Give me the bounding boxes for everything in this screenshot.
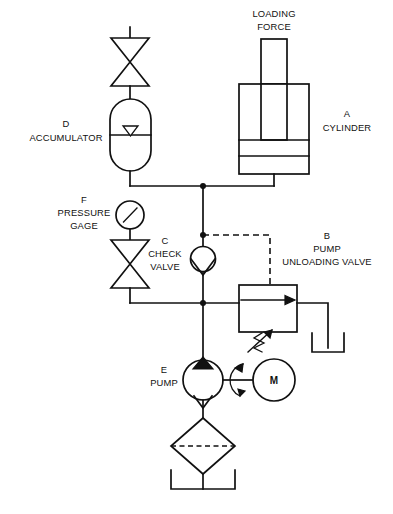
cylinder-label: A CYLINDER <box>323 108 372 133</box>
motor-tag: M <box>270 375 278 386</box>
pressure-gage-tag: F <box>81 194 87 205</box>
check-valve-tag: C <box>162 235 169 246</box>
hydraulic-schematic-diagram: D ACCUMULATOR LOADING FORCE A CYLINDER <box>0 0 393 514</box>
accumulator-name: ACCUMULATOR <box>29 132 102 143</box>
unloading-valve-line1: PUMP <box>313 243 341 254</box>
check-valve-line1: CHECK <box>148 248 182 259</box>
pressure-gage-line1: PRESSURE <box>58 207 111 218</box>
unloading-valve-line2: UNLOADING VALVE <box>282 256 371 267</box>
cylinder-tag: A <box>344 108 351 119</box>
unloading-valve-tag: B <box>324 230 330 241</box>
pressure-gage-symbol <box>116 201 144 240</box>
loading-force-label: LOADING FORCE <box>252 8 295 32</box>
pump-label: E PUMP <box>150 364 178 388</box>
filter-symbol <box>171 418 235 489</box>
pressure-gage-label: F PRESSURE GAGE <box>58 194 111 231</box>
junction-dot-unloading <box>200 300 206 306</box>
pressure-gage-line2: GAGE <box>70 220 98 231</box>
accumulator-symbol <box>110 99 151 186</box>
accumulator-tag: D <box>63 118 70 129</box>
accumulator-shutoff-valve <box>111 27 149 99</box>
motor-symbol: M <box>253 359 295 401</box>
junction-dot-header <box>200 183 206 189</box>
pump-tag: E <box>161 364 167 375</box>
loading-force-line1: LOADING <box>252 8 295 19</box>
pump-symbol <box>183 357 253 418</box>
check-valve-line2: VALVE <box>150 261 180 272</box>
schematic-canvas: D ACCUMULATOR LOADING FORCE A CYLINDER <box>0 0 393 514</box>
unloading-valve-symbol <box>200 285 328 352</box>
pump-name: PUMP <box>150 377 178 388</box>
loading-force-line2: FORCE <box>257 21 291 32</box>
cylinder-name: CYLINDER <box>323 122 372 133</box>
accumulator-label: D ACCUMULATOR <box>29 118 102 143</box>
check-valve-label: C CHECK VALVE <box>148 235 182 272</box>
unloading-valve-label: B PUMP UNLOADING VALVE <box>282 230 371 267</box>
cylinder-symbol <box>239 39 309 186</box>
